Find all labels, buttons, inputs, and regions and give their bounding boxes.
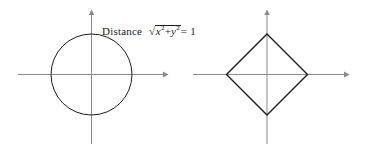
unit-diamond-diagram (189, 0, 378, 151)
y-axis-arrowhead-icon (264, 10, 270, 16)
x-axis-arrowhead-icon (163, 72, 169, 78)
y-axis-arrowhead-icon (89, 10, 95, 16)
expr-term2-exponent: 2 (176, 24, 180, 32)
figure-unit-circle: Distance√x2+y2= 1 (0, 0, 189, 151)
figure-unit-diamond: Distance|x|+|y|= 1 (189, 0, 378, 151)
label-lead-text: Distance (102, 25, 142, 37)
label-euclidean-distance: Distance√x2+y2= 1 (102, 25, 196, 37)
axes-group (193, 10, 350, 145)
unit-circle-diagram (0, 0, 189, 151)
x-axis-arrowhead-icon (344, 72, 350, 78)
